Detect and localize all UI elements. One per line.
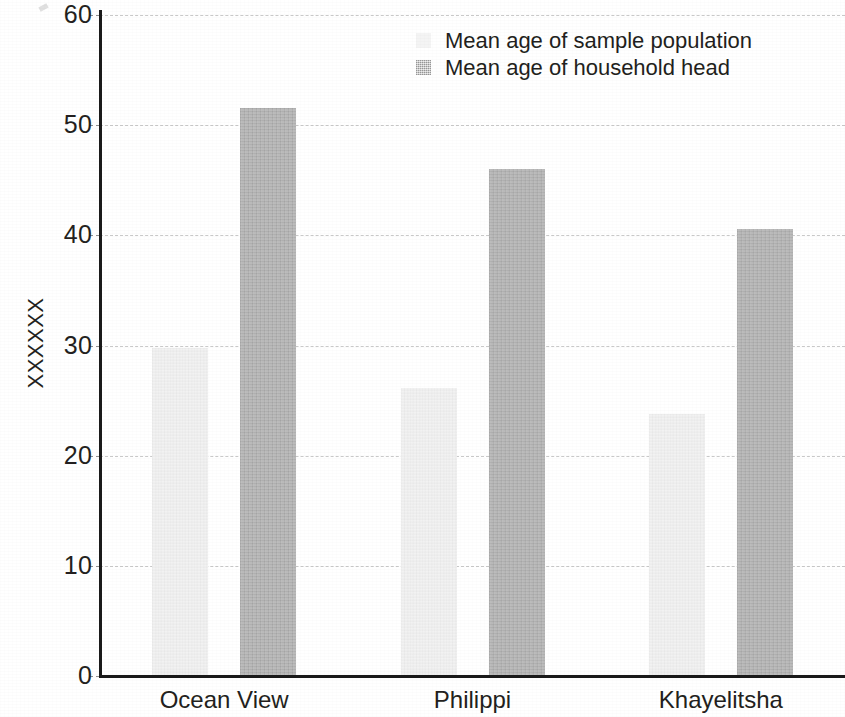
bar-philippi-series-1 bbox=[401, 388, 457, 676]
x-tick-label-ocean-view: Ocean View bbox=[100, 686, 348, 714]
gridline-60 bbox=[100, 15, 845, 17]
x-tick-label-khayelitsha: Khayelitsha bbox=[597, 686, 845, 714]
plot-area bbox=[100, 15, 845, 676]
bar-philippi-series-2 bbox=[489, 169, 545, 676]
x-axis-tick-labels: Ocean ViewPhilippiKhayelitsha bbox=[100, 686, 845, 717]
legend-swatch-icon-2 bbox=[416, 60, 431, 75]
legend-item-2: Mean age of household head bbox=[416, 54, 752, 81]
legend-swatch-icon-1 bbox=[416, 33, 431, 48]
x-axis-spine bbox=[99, 675, 845, 678]
bar-ocean-view-series-1 bbox=[152, 348, 208, 676]
legend-item-1: Mean age of sample population bbox=[416, 27, 752, 54]
gridline-50 bbox=[100, 125, 845, 127]
gridline-30 bbox=[100, 346, 845, 348]
y-axis-title: XXXXXX bbox=[23, 288, 49, 398]
legend-label-1: Mean age of sample population bbox=[445, 29, 752, 53]
bar-khayelitsha-series-1 bbox=[649, 414, 705, 676]
gridline-40 bbox=[100, 235, 845, 237]
y-tick-label-20: 20 bbox=[28, 443, 92, 468]
y-tick-label-10: 10 bbox=[28, 553, 92, 578]
y-axis-spine bbox=[99, 10, 102, 678]
bar-ocean-view-series-2 bbox=[240, 108, 296, 676]
legend-label-2: Mean age of household head bbox=[445, 56, 730, 80]
y-tick-label-60: 60 bbox=[28, 2, 92, 27]
y-tick-label-0: 0 bbox=[28, 663, 92, 688]
chart-legend: Mean age of sample populationMean age of… bbox=[416, 27, 752, 81]
bar-khayelitsha-series-2 bbox=[737, 229, 793, 676]
y-tick-label-40: 40 bbox=[28, 222, 92, 247]
bar-chart: 0102030405060 XXXXXX Ocean ViewPhilippiK… bbox=[0, 0, 845, 717]
gridline-10 bbox=[100, 566, 845, 568]
gridline-20 bbox=[100, 456, 845, 458]
x-tick-label-philippi: Philippi bbox=[348, 686, 596, 714]
y-tick-label-50: 50 bbox=[28, 112, 92, 137]
